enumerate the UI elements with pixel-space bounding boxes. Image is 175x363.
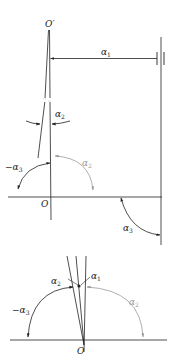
radial-line-vertical <box>84 256 86 352</box>
neg-alpha3-label: −α3 <box>5 162 23 173</box>
angle-diagram: α1 O′ α2 O −α3 α2 α3 O α2 α1 <box>0 0 175 363</box>
alpha2-gray-label: α2 <box>82 158 92 169</box>
neg-alpha3-arc <box>28 287 73 337</box>
o-prime-label: O′ <box>45 19 54 29</box>
alpha2-label: α2 <box>51 276 61 287</box>
tilted-line-lower <box>38 102 45 158</box>
alpha2-gray-label: α2 <box>129 297 139 308</box>
bottom-figure: O α2 α1 −α3 α2 <box>10 256 167 356</box>
top-figure: α1 O′ α2 O −α3 α2 α3 <box>5 19 164 245</box>
alpha2-small-arc-left <box>26 121 40 124</box>
alpha2-gray-arc <box>87 287 143 337</box>
radial-line-left <box>67 256 84 345</box>
vertical-axis <box>50 30 51 98</box>
alpha1-label: α1 <box>101 47 111 58</box>
vertical-axis-lower <box>50 102 51 220</box>
tilted-line <box>45 30 49 98</box>
alpha2-label: α2 <box>55 109 65 120</box>
alpha1-label: α1 <box>91 271 101 282</box>
alpha2-leader <box>68 279 78 285</box>
origin-label: O <box>41 199 49 209</box>
neg-alpha3-label: −α3 <box>12 305 30 316</box>
radial-line-middle <box>76 256 84 345</box>
alpha3-label: α3 <box>123 223 133 234</box>
alpha2-small-arc-right <box>52 121 70 124</box>
origin-label: O <box>77 346 85 356</box>
neg-alpha3-arc <box>18 163 50 189</box>
